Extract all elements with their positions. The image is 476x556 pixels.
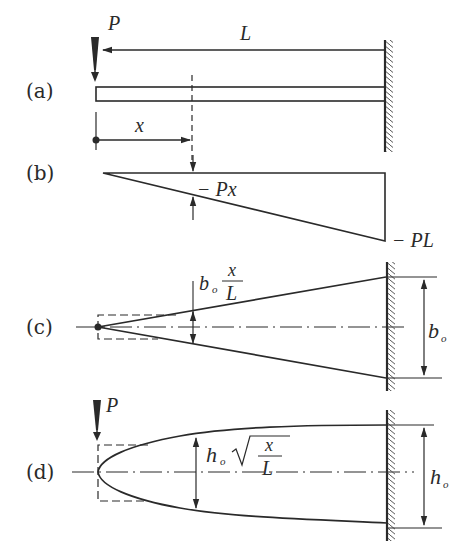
width-fraction-num: x: [227, 260, 236, 280]
load-label-p: P: [107, 12, 120, 34]
beam: [96, 87, 385, 101]
panel-b: (b) − Px − PL: [26, 155, 434, 251]
root-width-sub: o: [441, 332, 447, 344]
root-depth-sub: o: [443, 478, 449, 490]
root-depth-label: h: [430, 464, 441, 489]
panel-d: (d) P h o x L: [26, 394, 449, 541]
fixed-wall-icon: [387, 410, 395, 541]
width-prefix-sub: o: [212, 283, 218, 295]
fixed-wall-icon: [387, 262, 395, 391]
parabolic-profile: [98, 425, 387, 523]
width-prefix: b: [199, 272, 209, 294]
width-at-x-label: b o x L: [199, 260, 243, 304]
load-label-p-d: P: [105, 394, 118, 416]
origin-dot: [93, 137, 100, 144]
sqrt-sign-icon: [232, 436, 290, 465]
tip-dot: [95, 324, 102, 331]
depth-fraction-num: x: [264, 435, 273, 455]
panel-d-label: (d): [26, 460, 54, 484]
load-arrow-icon: [91, 37, 99, 82]
moment-diagram-triangle: [103, 173, 385, 241]
panel-c-label: (c): [26, 315, 53, 339]
fixed-wall-icon: [385, 40, 393, 152]
moment-label-px: − Px: [197, 178, 237, 200]
load-arrow-icon: [93, 400, 101, 441]
taper-top-edge: [98, 277, 386, 327]
taper-bottom-edge: [98, 327, 386, 378]
moment-label-pl: − PL: [392, 229, 434, 251]
depth-prefix-sub: o: [220, 455, 226, 467]
depth-fraction-den: L: [261, 457, 273, 479]
panel-b-label: (b): [26, 161, 54, 185]
position-label-x: x: [134, 114, 144, 136]
depth-prefix: h: [206, 442, 217, 467]
panel-a-label: (a): [26, 79, 54, 103]
panel-c: (c) b o x L b o: [26, 260, 447, 391]
width-fraction-den: L: [225, 282, 237, 304]
cantilever-beam-diagram: (a) P L x (b) −: [0, 0, 476, 556]
root-width-label: b: [428, 318, 439, 343]
panel-a: (a) P L x: [26, 12, 393, 160]
length-label-l: L: [239, 22, 251, 44]
